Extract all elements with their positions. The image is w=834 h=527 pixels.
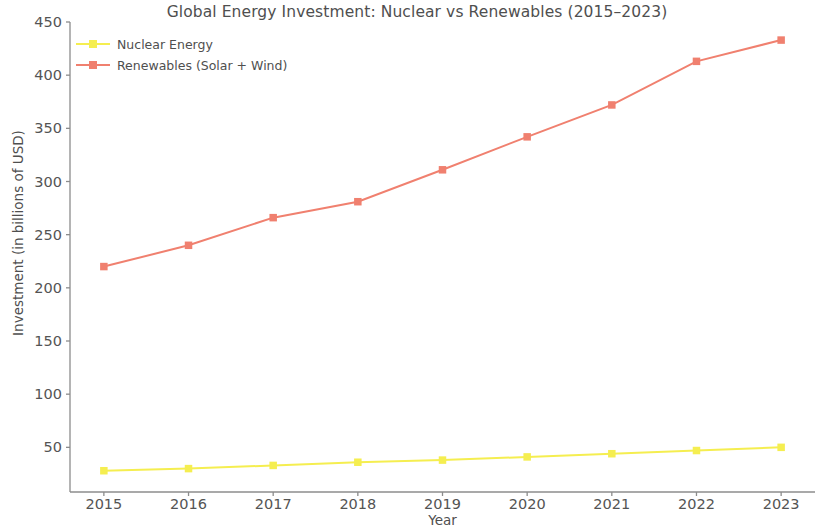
x-axis-tick-label: 2022 bbox=[678, 496, 715, 512]
data-point-marker bbox=[523, 133, 531, 141]
data-point-marker bbox=[693, 58, 701, 65]
x-axis-tick-label: 2015 bbox=[85, 496, 122, 512]
y-axis-tick-label: 50 bbox=[16, 439, 62, 455]
x-axis-tick-label: 2016 bbox=[170, 496, 207, 512]
legend-label: Renewables (Solar + Wind) bbox=[117, 58, 287, 73]
data-point-marker bbox=[608, 101, 616, 109]
data-point-marker bbox=[693, 447, 701, 455]
data-point-marker bbox=[185, 242, 193, 250]
x-axis-tick-label: 2021 bbox=[593, 496, 630, 512]
chart-figure: Global Energy Investment: Nuclear vs Ren… bbox=[0, 0, 834, 527]
data-series-layer bbox=[100, 36, 785, 474]
legend-swatch-icon bbox=[76, 59, 110, 71]
legend-label: Nuclear Energy bbox=[117, 37, 213, 52]
legend-marker-icon bbox=[89, 61, 97, 69]
x-axis-label: Year bbox=[70, 512, 815, 527]
x-axis-tick-label: 2019 bbox=[424, 496, 461, 512]
chart-canvas bbox=[0, 0, 834, 527]
y-axis-label: Investment (in billions of USD) bbox=[10, 63, 26, 403]
data-point-marker bbox=[100, 263, 108, 271]
legend-entry[interactable]: Nuclear Energy bbox=[76, 36, 287, 52]
x-axis-tick-label: 2017 bbox=[255, 496, 292, 512]
x-axis-tick-label: 2020 bbox=[509, 496, 546, 512]
legend-swatch-icon bbox=[76, 38, 110, 50]
axis-spines bbox=[70, 22, 815, 492]
data-point-marker bbox=[354, 198, 362, 206]
data-point-marker bbox=[354, 458, 362, 466]
data-point-marker bbox=[439, 166, 447, 174]
data-point-marker bbox=[523, 453, 531, 461]
legend-entry[interactable]: Renewables (Solar + Wind) bbox=[76, 57, 287, 73]
chart-legend: Nuclear EnergyRenewables (Solar + Wind) bbox=[76, 36, 287, 73]
data-point-marker bbox=[777, 36, 785, 44]
legend-marker-icon bbox=[89, 40, 97, 48]
data-point-marker bbox=[100, 467, 108, 475]
x-axis-tick-label: 2018 bbox=[339, 496, 376, 512]
data-series bbox=[100, 444, 785, 475]
data-point-marker bbox=[185, 465, 193, 473]
data-point-marker bbox=[439, 456, 447, 464]
axis-ticks bbox=[66, 22, 781, 496]
y-axis-tick-label: 450 bbox=[16, 14, 62, 30]
data-point-marker bbox=[777, 444, 785, 452]
data-point-marker bbox=[269, 462, 277, 470]
x-axis-tick-label: 2023 bbox=[763, 496, 800, 512]
series-line bbox=[104, 40, 781, 266]
data-point-marker bbox=[608, 450, 616, 458]
data-point-marker bbox=[269, 214, 277, 222]
